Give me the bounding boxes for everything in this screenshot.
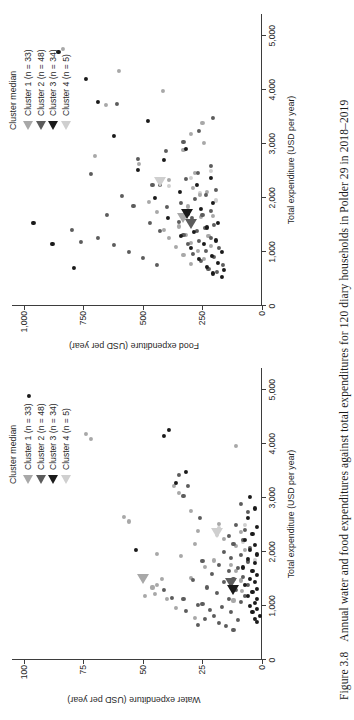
data-point [162,228,166,232]
food-y-axis-label-wrap: Food expenditure (USD per year) [6,338,262,354]
data-point [193,616,197,620]
y-tick [24,306,25,310]
data-point [134,548,138,552]
x-tick-label: 2,000 [267,187,277,209]
data-point [211,272,215,276]
data-point [243,528,247,532]
triangle-left-icon [61,475,71,484]
data-point [189,246,193,250]
legend-item-label: Cluster 2 (n = 48) [36,403,46,470]
figure-caption: Figure 3.8Annual water and food expendit… [338,10,350,700]
data-point [229,610,233,614]
data-point [136,157,140,161]
data-point [209,209,213,213]
triangle-left-icon [36,475,46,484]
data-point [216,221,220,225]
data-point [240,589,244,593]
data-point [202,242,206,246]
data-point [199,207,203,211]
data-point [119,194,123,198]
data-point [208,608,212,612]
data-point [189,509,193,513]
x-tick [262,143,266,144]
panel-water-expenditure: Water expenditure (USD per year) 01,0002… [6,362,306,712]
data-point [197,239,201,243]
data-point [214,239,218,243]
data-point [241,566,245,570]
data-point [236,618,240,622]
data-point [115,102,119,106]
data-point [89,172,93,176]
data-point [153,196,157,200]
x-tick [262,251,266,252]
data-point [158,229,162,233]
water-y-axis-label-wrap: Water expenditure (USD per year) [6,692,262,708]
data-point [193,542,197,546]
x-tick [262,551,266,552]
data-point [177,491,181,495]
data-point [186,484,190,488]
data-point [217,522,221,526]
y-tick [202,660,203,664]
y-tick [262,306,263,310]
cluster-median-marker [154,177,166,187]
data-point [181,597,185,601]
data-point [160,577,164,581]
legend-item-cluster-4: Cluster 4 (n = 5) [60,366,73,484]
data-point [141,256,145,260]
data-point [191,578,195,582]
y-tick-label: 25 [197,665,207,675]
data-point [255,553,259,557]
data-point [196,603,200,607]
y-tick-label: 0 [257,665,267,670]
data-point [84,432,88,436]
data-point [174,245,178,249]
data-point [143,594,147,598]
x-tick-label: 5,000 [267,25,277,47]
x-tick-label: 5,000 [267,379,277,401]
data-point [167,184,171,188]
cluster-median-marker [137,574,149,584]
data-point [221,263,225,267]
legend-item-cluster-2: Cluster 2 (n = 48) [35,12,48,130]
data-point [202,141,206,145]
data-point [196,623,200,627]
y-tick-label: 1,000 [19,311,29,333]
data-point [239,553,243,557]
triangle-left-icon [23,121,33,130]
data-point [162,158,166,162]
data-point [241,575,245,579]
data-point [155,552,159,556]
x-tick [262,605,266,606]
data-point [161,89,165,93]
data-point [214,188,218,192]
data-point [200,559,204,563]
data-point [198,193,202,197]
figure-number: Figure 3.8 [338,652,350,700]
legend-item-label: Cluster 1 (n = 33) [23,403,33,470]
food-legend: Cluster median Cluster 1 (n = 33)Cluster… [8,12,72,130]
data-point [248,604,252,608]
data-point [229,563,233,567]
data-point [197,129,201,133]
data-point [147,200,151,204]
y-tick-label: 750 [78,311,88,325]
data-point [184,177,188,181]
x-tick [262,497,266,498]
data-point [164,149,168,153]
food-y-axis-label: Food expenditure (USD per year) [29,341,239,351]
data-point [167,236,171,240]
x-tick-label: 0 [267,304,277,309]
data-point [212,614,216,618]
data-point [239,530,243,534]
data-point [174,481,178,485]
data-point [189,262,193,266]
legend-title: Cluster median [8,366,18,484]
data-point [93,154,97,158]
y-tick [143,660,144,664]
data-point [255,525,259,529]
water-legend: Cluster median Cluster 1 (n = 33)Cluster… [8,366,72,484]
data-point [148,221,152,225]
cluster-median-marker [227,585,239,595]
triangle-left-icon [61,121,71,130]
